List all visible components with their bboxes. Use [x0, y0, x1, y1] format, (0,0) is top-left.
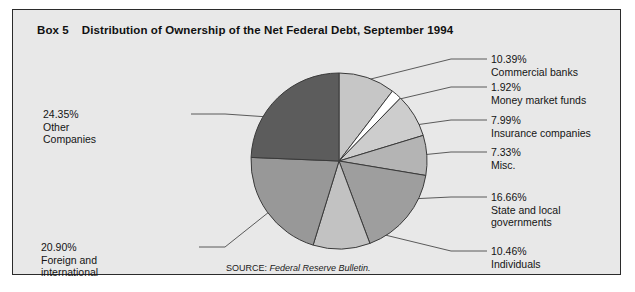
callout-label: State and local [491, 204, 560, 217]
callout-percent: 10.39% [491, 53, 578, 66]
callout-label: Misc. [491, 159, 521, 172]
callout-percent: 16.66% [491, 191, 560, 204]
callout-percent: 1.92% [491, 81, 586, 94]
pie-slices [251, 73, 427, 249]
callout-label: Companies [43, 133, 96, 146]
callout-state-local: 16.66%State and localgovernments [491, 191, 560, 229]
callout-misc: 7.33%Misc. [491, 146, 521, 171]
source-note: SOURCE: Federal Reserve Bulletin. [226, 263, 371, 273]
callout-label: Individuals [491, 258, 541, 271]
leader-line [366, 59, 487, 80]
callout-foreign-intl: 20.90%Foreign andinternational [41, 241, 98, 279]
callout-insurance: 7.99%Insurance companies [491, 114, 591, 139]
callout-percent: 24.35% [43, 108, 96, 121]
callout-percent: 20.90% [41, 241, 98, 254]
callout-label: governments [491, 216, 560, 229]
callout-label: international [41, 266, 98, 279]
figure-root: Box 5Distribution of Ownership of the Ne… [0, 0, 635, 292]
source-publication: Federal Reserve Bulletin. [270, 263, 371, 273]
callout-percent: 7.99% [491, 114, 591, 127]
callout-other-companies: 24.35%OtherCompanies [43, 108, 96, 146]
callout-label: Commercial banks [491, 66, 578, 79]
callout-percent: 10.46% [491, 245, 541, 258]
callout-commercial-banks: 10.39%Commercial banks [491, 53, 578, 78]
source-label: SOURCE: [226, 263, 267, 273]
leader-line [391, 87, 487, 101]
callout-individuals: 10.46%Individuals [491, 245, 541, 270]
callout-money-market: 1.92%Money market funds [491, 81, 586, 106]
pie-chart [13, 10, 622, 276]
box-panel: Box 5Distribution of Ownership of the Ne… [12, 9, 621, 275]
callout-label: Money market funds [491, 94, 586, 107]
callout-label: Foreign and [41, 254, 98, 267]
callout-label: Insurance companies [491, 127, 591, 140]
callout-percent: 7.33% [491, 146, 521, 159]
callout-label: Other [43, 121, 96, 134]
pie-slice [251, 73, 339, 161]
